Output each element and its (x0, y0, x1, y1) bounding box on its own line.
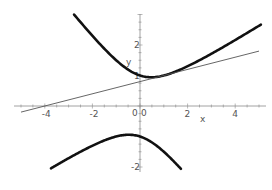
x-tick-label: -2 (89, 109, 98, 119)
chart-plot: -4-2240021-2 x y (0, 0, 272, 190)
x-tick-label: -4 (42, 109, 51, 119)
y-axis-label: y (126, 57, 132, 67)
origin-label-y: 0 (132, 108, 138, 118)
origin-label-x: 0 (141, 108, 147, 118)
series (21, 15, 261, 169)
hyperbola-lower-branch (51, 135, 181, 169)
x-tick-label: 2 (185, 109, 191, 119)
hyperbola-upper-branch (74, 15, 261, 78)
x-axis-label: x (200, 114, 206, 124)
axes: -4-2240021-2 (14, 14, 266, 172)
y-tick-label: 2 (134, 40, 140, 50)
labels: x y (126, 57, 206, 124)
y-tick-label: -2 (131, 162, 140, 172)
x-tick-label: 4 (232, 109, 238, 119)
